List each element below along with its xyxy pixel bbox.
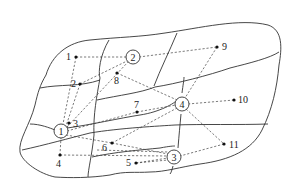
point-8: 8 — [114, 71, 119, 86]
region-line — [178, 114, 181, 148]
hub-3: 3 — [167, 150, 181, 164]
edge — [180, 144, 224, 156]
point-10: 10 — [232, 94, 248, 105]
point-11: 11 — [222, 139, 238, 150]
svg-text:10: 10 — [238, 94, 248, 105]
hub-1: 1 — [54, 124, 68, 138]
svg-text:11: 11 — [229, 139, 239, 150]
hub-2: 2 — [126, 50, 140, 64]
svg-text:8: 8 — [114, 75, 119, 86]
edge — [139, 47, 217, 57]
svg-text:7: 7 — [134, 99, 139, 110]
point-1: 1 — [66, 51, 78, 62]
svg-text:4: 4 — [180, 99, 185, 110]
svg-text:3: 3 — [73, 118, 78, 129]
region-line — [88, 40, 109, 177]
point-9: 9 — [215, 41, 227, 52]
region-line — [40, 80, 100, 88]
edge — [186, 109, 224, 144]
network-diagram: 1 2 3 4 1 2 3 4 5 6 7 8 9 10 11 — [0, 0, 297, 193]
point-4: 4 — [56, 153, 62, 169]
edge — [80, 61, 127, 84]
edge — [60, 137, 61, 155]
svg-text:2: 2 — [131, 52, 136, 63]
region-line — [67, 100, 177, 128]
point-2: 2 — [71, 78, 82, 89]
svg-text:5: 5 — [126, 157, 131, 168]
svg-text:4: 4 — [56, 158, 61, 169]
edge — [188, 100, 234, 104]
svg-text:9: 9 — [222, 41, 227, 52]
edge — [185, 47, 217, 98]
region-line — [30, 124, 55, 130]
svg-text:1: 1 — [59, 126, 64, 137]
region-line — [182, 77, 184, 93]
point-7: 7 — [134, 99, 139, 114]
region-line — [154, 33, 177, 86]
point-6: 6 — [102, 141, 114, 153]
region-line — [97, 52, 279, 100]
svg-text:6: 6 — [102, 142, 107, 153]
edge — [60, 155, 168, 156]
edge — [117, 73, 177, 100]
svg-text:2: 2 — [71, 78, 76, 89]
edge — [63, 57, 76, 124]
svg-text:1: 1 — [66, 51, 71, 62]
point-5: 5 — [126, 157, 138, 168]
svg-text:3: 3 — [172, 152, 177, 163]
hub-4: 4 — [175, 97, 189, 111]
